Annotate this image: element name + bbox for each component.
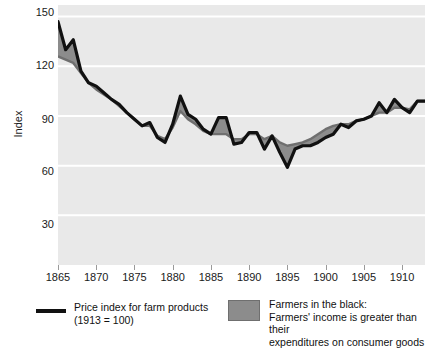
plot-background [58, 5, 425, 265]
x-tick-label: 1910 [382, 272, 422, 283]
x-tick-label: 1905 [344, 272, 384, 283]
x-tick-label: 1875 [114, 272, 154, 283]
x-tick-mark [134, 265, 135, 270]
y-tick-label: 60 [8, 166, 54, 177]
x-tick-mark [402, 265, 403, 270]
legend-box-swatch-icon [228, 300, 260, 321]
x-tick-label: 1900 [306, 272, 346, 283]
x-tick-label: 1890 [229, 272, 269, 283]
y-tick-label: 120 [8, 60, 54, 71]
x-tick-mark [364, 265, 365, 270]
x-tick-mark [287, 265, 288, 270]
x-tick-mark [211, 265, 212, 270]
x-tick-label: 1865 [38, 272, 78, 283]
legend-label: Price index for farm products (1913 = 10… [74, 298, 208, 326]
x-tick-mark [96, 265, 97, 270]
legend-line-swatch-icon [36, 309, 66, 313]
y-tick-label: 150 [8, 7, 54, 18]
legend-label: Farmers in the black: Farmers' income is… [269, 295, 440, 348]
x-tick-mark [326, 265, 327, 270]
x-tick-mark [58, 265, 59, 270]
x-tick-label: 1885 [191, 272, 231, 283]
y-axis-title: Index [12, 84, 24, 164]
legend-item-farmers-in-black: Farmers in the black: Farmers' income is… [228, 295, 440, 348]
y-axis-ticks: 150 120 90 60 30 [0, 0, 54, 265]
chart-legend: Price index for farm products (1913 = 10… [0, 298, 440, 336]
x-tick-label: 1880 [153, 272, 193, 283]
y-tick-label: 30 [8, 219, 54, 230]
x-tick-mark [249, 265, 250, 270]
legend-item-price-index: Price index for farm products (1913 = 10… [36, 298, 256, 326]
x-tick-mark [173, 265, 174, 270]
x-tick-label: 1870 [76, 272, 116, 283]
x-tick-label: 1895 [267, 272, 307, 283]
